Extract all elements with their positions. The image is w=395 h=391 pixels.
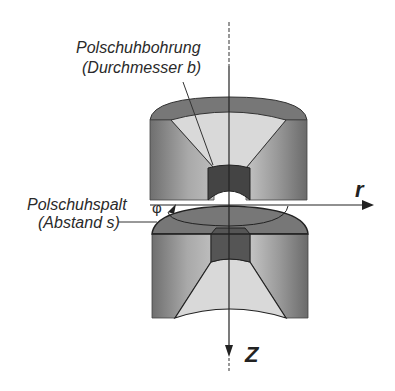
bore-label-line2: (Durchmesser b): [82, 58, 201, 77]
r-axis-label: r: [355, 177, 364, 203]
lower-pole-piece: [152, 206, 308, 318]
z-axis-label: Z: [245, 342, 258, 368]
z-arrowhead: [225, 345, 233, 357]
gap-label-line2: (Abstand s): [38, 213, 120, 232]
bore-label-line1: Polschuhbohrung: [76, 38, 201, 57]
phi-label: φ: [152, 198, 162, 217]
gap-label-line1: Polschuhspalt: [27, 195, 127, 214]
